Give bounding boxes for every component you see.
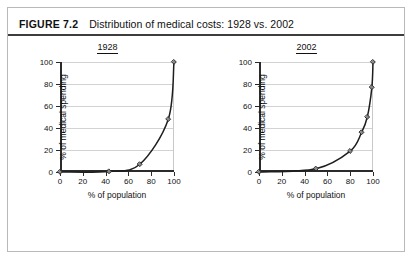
y-axis-title-2002: % of medical spending bbox=[257, 74, 267, 160]
data-point-marker bbox=[371, 60, 376, 65]
x-axis-tick bbox=[174, 172, 175, 176]
plot-area-1928: 020406080100020406080100 % of medical sp… bbox=[60, 62, 174, 172]
x-axis-title-1928: % of population bbox=[60, 190, 174, 200]
plot-area-2002: 020406080100020406080100 % of medical sp… bbox=[259, 62, 373, 172]
x-axis-tick bbox=[106, 172, 107, 176]
y-axis-tick-label: 60 bbox=[243, 102, 252, 111]
chart-panels: 1928 020406080100020406080100 % of medic… bbox=[8, 36, 404, 251]
figure-header: FIGURE 7.2Distribution of medical costs:… bbox=[8, 8, 404, 35]
panel-title-1928: 1928 bbox=[8, 42, 207, 52]
data-point-marker bbox=[172, 60, 177, 65]
data-point-marker bbox=[365, 115, 370, 120]
x-axis-tick-label: 40 bbox=[101, 177, 110, 186]
x-axis-tick-label: 80 bbox=[346, 177, 355, 186]
y-axis-tick-label: 20 bbox=[243, 146, 252, 155]
x-axis-title-2002: % of population bbox=[259, 190, 373, 200]
y-axis-tick-label: 100 bbox=[40, 58, 53, 67]
x-axis-tick-label: 60 bbox=[124, 177, 133, 186]
y-axis-tick-label: 0 bbox=[248, 168, 252, 177]
panel-title-label-1928: 1928 bbox=[97, 42, 117, 54]
y-axis-title-1928: % of medical spending bbox=[58, 74, 68, 160]
chart-panel-2002: 2002 020406080100020406080100 % of medic… bbox=[207, 36, 406, 251]
x-axis-tick-label: 0 bbox=[257, 177, 261, 186]
x-axis-tick-label: 0 bbox=[58, 177, 62, 186]
x-axis-tick bbox=[373, 172, 374, 176]
series-line bbox=[259, 62, 373, 172]
x-axis-tick bbox=[151, 172, 152, 176]
y-axis-tick-label: 60 bbox=[44, 102, 53, 111]
y-axis-tick-label: 80 bbox=[44, 80, 53, 89]
series-line bbox=[60, 62, 174, 172]
x-axis-tick-label: 100 bbox=[366, 177, 379, 186]
figure-title: Distribution of medical costs: 1928 vs. … bbox=[89, 18, 294, 30]
chart-panel-1928: 1928 020406080100020406080100 % of medic… bbox=[8, 36, 207, 251]
x-axis-tick bbox=[282, 172, 283, 176]
panel-title-label-2002: 2002 bbox=[296, 42, 316, 54]
data-point-marker bbox=[107, 169, 112, 174]
panel-title-2002: 2002 bbox=[207, 42, 406, 52]
figure-box: FIGURE 7.2Distribution of medical costs:… bbox=[7, 7, 405, 252]
y-axis-tick-label: 80 bbox=[243, 80, 252, 89]
data-point-marker bbox=[314, 166, 319, 171]
x-axis-tick-label: 20 bbox=[277, 177, 286, 186]
x-axis-tick-label: 100 bbox=[167, 177, 180, 186]
y-axis-tick-label: 20 bbox=[44, 146, 53, 155]
figure-caption: FIGURE 7.2Distribution of medical costs:… bbox=[19, 14, 294, 32]
x-axis-tick bbox=[128, 172, 129, 176]
x-axis-tick bbox=[327, 172, 328, 176]
x-axis-tick-label: 60 bbox=[323, 177, 332, 186]
data-point-marker bbox=[257, 170, 262, 175]
x-axis-tick bbox=[305, 172, 306, 176]
y-axis-tick-label: 0 bbox=[49, 168, 53, 177]
x-axis-tick-label: 40 bbox=[300, 177, 309, 186]
data-point-marker bbox=[58, 170, 63, 175]
figure-number: FIGURE 7.2 bbox=[19, 18, 78, 30]
y-axis-tick-label: 40 bbox=[243, 124, 252, 133]
data-point-marker bbox=[166, 117, 171, 122]
x-axis-tick-label: 80 bbox=[147, 177, 156, 186]
x-axis-tick-label: 20 bbox=[78, 177, 87, 186]
y-axis-tick-label: 100 bbox=[239, 58, 252, 67]
data-point-marker bbox=[370, 85, 375, 90]
y-axis-tick-label: 40 bbox=[44, 124, 53, 133]
x-axis-tick bbox=[350, 172, 351, 176]
